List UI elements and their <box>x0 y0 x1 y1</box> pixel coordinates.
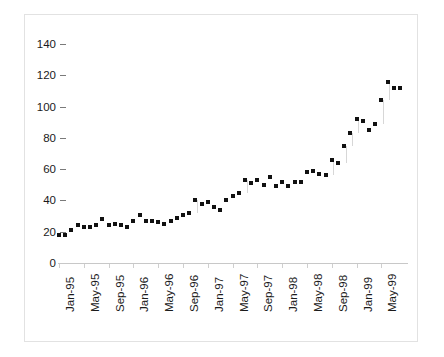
data-point <box>138 213 142 217</box>
connector-line <box>333 160 334 176</box>
data-point <box>125 225 129 229</box>
data-point <box>69 228 73 232</box>
data-point <box>243 178 247 182</box>
connector-line <box>358 119 359 133</box>
y-axis-tick-label: 60 <box>22 163 56 175</box>
y-axis-tick-label: 100 <box>22 101 56 113</box>
data-point <box>224 198 228 202</box>
data-point <box>107 223 111 227</box>
data-point <box>330 158 334 162</box>
x-axis-tick-label: May-97 <box>238 274 250 312</box>
data-point <box>100 217 104 221</box>
connector-line <box>383 100 384 123</box>
data-point <box>169 219 173 223</box>
x-axis-tick-label: May-99 <box>386 274 398 312</box>
data-point <box>392 86 396 90</box>
data-point <box>231 194 235 198</box>
x-axis-tick-mark <box>307 264 308 268</box>
data-point <box>293 180 297 184</box>
y-axis-tick-mark <box>60 107 66 108</box>
x-axis-tick-mark <box>332 264 333 268</box>
x-axis-tick-label: Sep-95 <box>114 275 126 312</box>
data-point <box>367 128 371 132</box>
data-point <box>286 184 290 188</box>
connector-line <box>346 146 347 163</box>
y-axis-tick-label: 0 <box>22 257 56 269</box>
data-point <box>237 191 241 195</box>
data-point <box>299 180 303 184</box>
plot-area: 020406080100120140 Jan-95May-95Sep-95Jan… <box>0 0 444 357</box>
data-point <box>94 223 98 227</box>
y-axis-tick-mark <box>60 138 66 139</box>
data-point <box>150 219 154 223</box>
data-point <box>379 98 383 102</box>
x-axis-tick-label: Sep-96 <box>188 275 200 312</box>
x-axis-tick-mark <box>158 264 159 268</box>
x-axis-tick-label: May-96 <box>163 274 175 312</box>
x-axis-tick-mark <box>109 264 110 268</box>
data-point <box>181 213 185 217</box>
data-point <box>218 208 222 212</box>
x-axis-tick-label: Sep-98 <box>337 275 349 312</box>
data-point <box>305 170 309 174</box>
data-point <box>249 181 253 185</box>
x-axis-tick-label: Jan-99 <box>362 277 374 312</box>
data-point <box>162 222 166 226</box>
data-point <box>274 184 278 188</box>
data-point <box>144 219 148 223</box>
data-point <box>317 172 321 176</box>
data-point <box>113 222 117 226</box>
data-point <box>386 80 390 84</box>
y-axis-tick-label: 20 <box>22 226 56 238</box>
data-point <box>206 200 210 204</box>
x-axis-tick-mark <box>133 264 134 268</box>
x-axis-tick-mark <box>282 264 283 268</box>
data-point <box>76 223 80 227</box>
data-point <box>355 117 359 121</box>
x-axis-tick-label: Jan-97 <box>213 277 225 312</box>
x-axis-tick-mark <box>233 264 234 268</box>
data-point <box>398 86 402 90</box>
y-axis-tick-mark <box>60 200 66 201</box>
data-point <box>88 225 92 229</box>
data-point <box>324 173 328 177</box>
data-point <box>342 144 346 148</box>
data-point <box>268 175 272 179</box>
y-axis-tick-label: 120 <box>22 69 56 81</box>
data-point <box>262 183 266 187</box>
data-point <box>200 202 204 206</box>
y-axis-tick-label: 140 <box>22 38 56 50</box>
x-axis-tick-label: Jan-98 <box>287 277 299 312</box>
y-axis-tick-mark <box>60 75 66 76</box>
data-point <box>255 178 259 182</box>
x-axis-tick-mark <box>59 264 60 268</box>
connector-line <box>389 82 390 101</box>
x-axis-tick-label: May-95 <box>89 274 101 312</box>
x-axis-tick-label: May-98 <box>312 274 324 312</box>
x-axis-tick-label: Sep-97 <box>262 275 274 312</box>
data-point <box>361 119 365 123</box>
data-point <box>82 225 86 229</box>
x-axis-tick-mark <box>183 264 184 268</box>
x-axis-tick-label: Jan-95 <box>64 277 76 312</box>
chart-screenshot: 020406080100120140 Jan-95May-95Sep-95Jan… <box>0 0 444 357</box>
data-point <box>311 169 315 173</box>
data-point <box>373 122 377 126</box>
y-axis-tick-label: 40 <box>22 194 56 206</box>
x-axis-tick-mark <box>208 264 209 268</box>
y-axis-tick-mark <box>60 44 66 45</box>
y-axis-tick-mark <box>60 169 66 170</box>
data-point <box>156 220 160 224</box>
data-point <box>280 180 284 184</box>
data-point <box>336 161 340 165</box>
data-point <box>57 233 61 237</box>
data-point <box>63 233 67 237</box>
x-axis-tick-label: Jan-96 <box>138 277 150 312</box>
y-axis-tick-label: 80 <box>22 132 56 144</box>
data-point <box>119 223 123 227</box>
x-axis-tick-mark <box>257 264 258 268</box>
data-point <box>348 131 352 135</box>
data-point <box>187 211 191 215</box>
data-point <box>212 205 216 209</box>
data-point <box>175 216 179 220</box>
